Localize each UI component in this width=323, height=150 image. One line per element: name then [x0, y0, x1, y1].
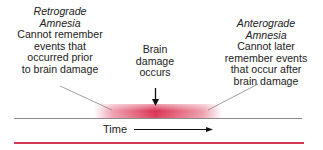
right-arrow-icon	[134, 127, 213, 132]
time-axis-label: Time	[103, 123, 127, 135]
down-arrow-icon	[152, 88, 159, 106]
timeline-diagram	[0, 0, 323, 150]
retrograde-pointer-line	[60, 86, 112, 110]
anterograde-pointer-line	[208, 84, 258, 110]
